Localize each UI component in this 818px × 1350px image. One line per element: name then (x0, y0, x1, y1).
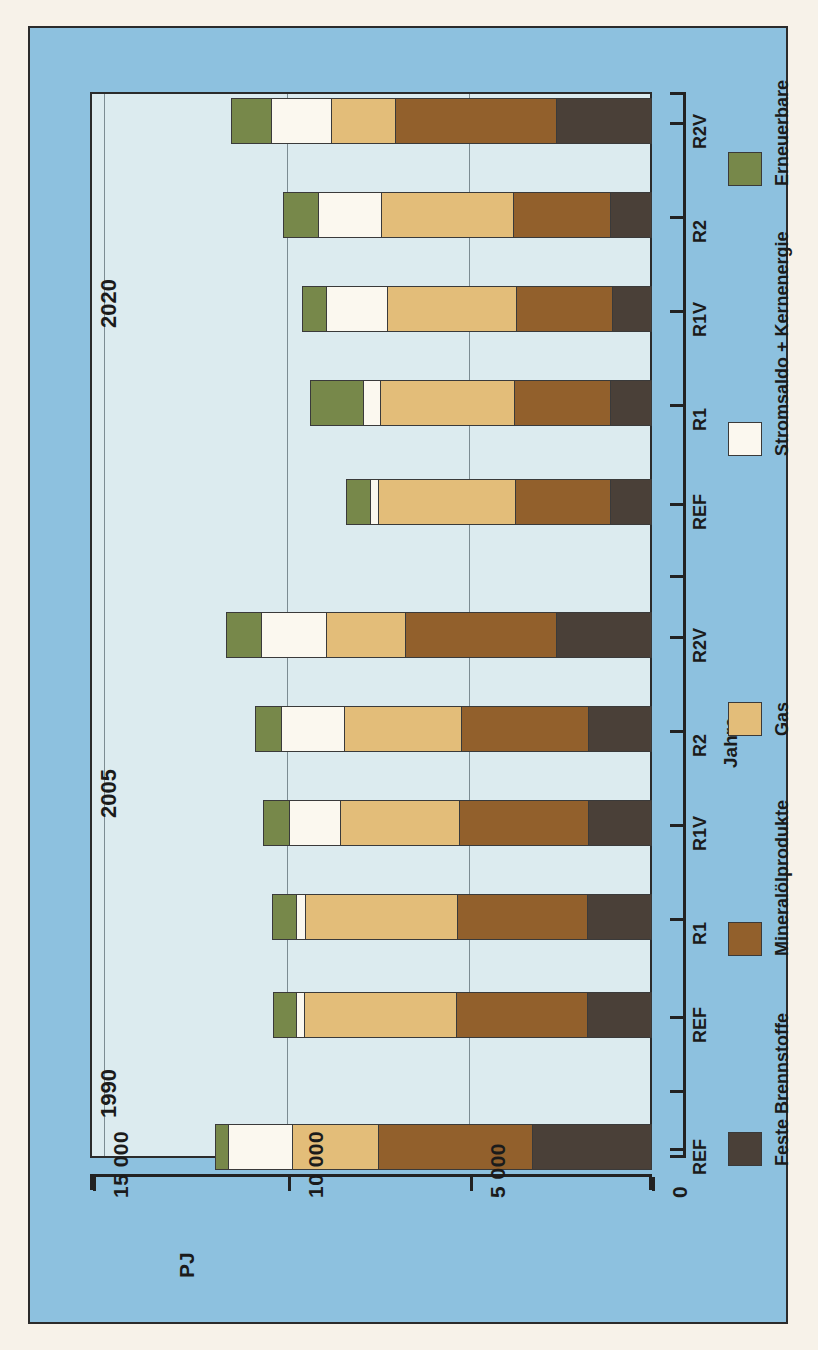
value-tick-label: 10 000 (304, 1131, 328, 1198)
chart-panel: PJ Jahre ErneuerbareStromsaldo + Kernene… (28, 26, 788, 1324)
legend-label: Mineralölprodukte (772, 800, 793, 956)
bar-segment (344, 707, 461, 751)
bar-segment (273, 895, 296, 939)
value-tick-label: 15 000 (109, 1131, 133, 1198)
bar-segment (387, 287, 516, 331)
bar (215, 1124, 652, 1170)
legend-label: Feste Brennstoffe (772, 1013, 793, 1166)
bar-segment (556, 613, 651, 657)
bar-segment (587, 993, 651, 1037)
bar-segment (228, 1125, 292, 1169)
bar-segment (284, 193, 318, 237)
category-tick-label: R1V (690, 302, 711, 337)
category-tick-label: R1V (690, 816, 711, 851)
category-tick-label: R2V (690, 628, 711, 663)
bar-segment (514, 381, 610, 425)
bar-segment (296, 993, 304, 1037)
legend-swatch (728, 152, 762, 186)
bar (273, 992, 652, 1038)
bar-segment (381, 193, 513, 237)
category-axis (670, 92, 686, 1158)
legend-swatch (728, 922, 762, 956)
value-tick (93, 1177, 96, 1191)
bar-segment (395, 99, 556, 143)
bar-segment (296, 895, 305, 939)
legend-label: Erneuerbare (772, 80, 793, 186)
bar-segment (347, 480, 370, 524)
category-tick-label: R2V (690, 114, 711, 149)
bar-segment (326, 287, 387, 331)
category-tick (670, 404, 684, 407)
legend-swatch (728, 1132, 762, 1166)
bar (263, 800, 652, 846)
bar (302, 286, 652, 332)
bar-segment (612, 287, 651, 331)
category-tick (670, 1090, 684, 1093)
bar-segment (227, 613, 261, 657)
bar-segment (457, 895, 587, 939)
bar (310, 380, 652, 426)
category-tick (670, 216, 684, 219)
plot-area (90, 92, 652, 1158)
bar-segment (261, 613, 326, 657)
bar-segment (515, 480, 610, 524)
category-tick-label: R1 (690, 408, 711, 431)
year-group-label: 2020 (96, 279, 122, 328)
year-group-label: 1990 (96, 1069, 122, 1118)
bar-segment (456, 993, 587, 1037)
bar (226, 612, 652, 658)
category-tick-label: R2 (690, 220, 711, 243)
bar-segment (380, 381, 514, 425)
category-tick-label: REF (690, 1139, 711, 1175)
bar-segment (318, 193, 381, 237)
value-tick-label: 0 (668, 1186, 692, 1198)
bar-segment (378, 480, 516, 524)
category-tick (670, 918, 684, 921)
legend: ErneuerbareStromsaldo + KernenergieGasMi… (720, 92, 812, 1212)
bar-segment (370, 480, 377, 524)
legend-label: Gas (772, 702, 793, 736)
value-tick-label: 5 000 (486, 1143, 510, 1198)
bar (231, 98, 652, 144)
category-tick (670, 824, 684, 827)
bar-segment (274, 993, 297, 1037)
value-axis (90, 1174, 652, 1190)
bar-segment (340, 801, 458, 845)
bar-segment (516, 287, 612, 331)
category-tick-label: R2 (690, 734, 711, 757)
bar-segment (610, 480, 651, 524)
chart-page: PJ Jahre ErneuerbareStromsaldo + Kernene… (0, 0, 818, 1350)
bar-segment (405, 613, 556, 657)
bar-segment (271, 99, 331, 143)
category-tick (670, 1148, 684, 1151)
category-tick-label: REF (690, 1007, 711, 1043)
bar-segment (610, 381, 651, 425)
bar-segment (588, 801, 651, 845)
bar-segment (256, 707, 281, 751)
bar-segment (459, 801, 588, 845)
bar-segment (326, 613, 405, 657)
bar-segment (311, 381, 363, 425)
value-tick (652, 1177, 655, 1191)
bar-segment (610, 193, 651, 237)
category-tick (670, 310, 684, 313)
bar (272, 894, 652, 940)
category-tick (670, 575, 684, 578)
bar-segment (513, 193, 611, 237)
bar-segment (331, 99, 395, 143)
bar (346, 479, 652, 525)
bar-segment (289, 801, 340, 845)
legend-swatch (728, 422, 762, 456)
year-group-label: 2005 (96, 769, 122, 818)
bar (255, 706, 652, 752)
bar-segment (264, 801, 289, 845)
bar-segment (232, 99, 271, 143)
bar-segment (216, 1125, 228, 1169)
legend-swatch (728, 702, 762, 736)
category-tick-label: R1 (690, 922, 711, 945)
bar (283, 192, 652, 238)
category-tick (670, 1016, 684, 1019)
bar-segment (532, 1125, 651, 1169)
bar-segment (588, 707, 651, 751)
value-tick (470, 1177, 473, 1191)
